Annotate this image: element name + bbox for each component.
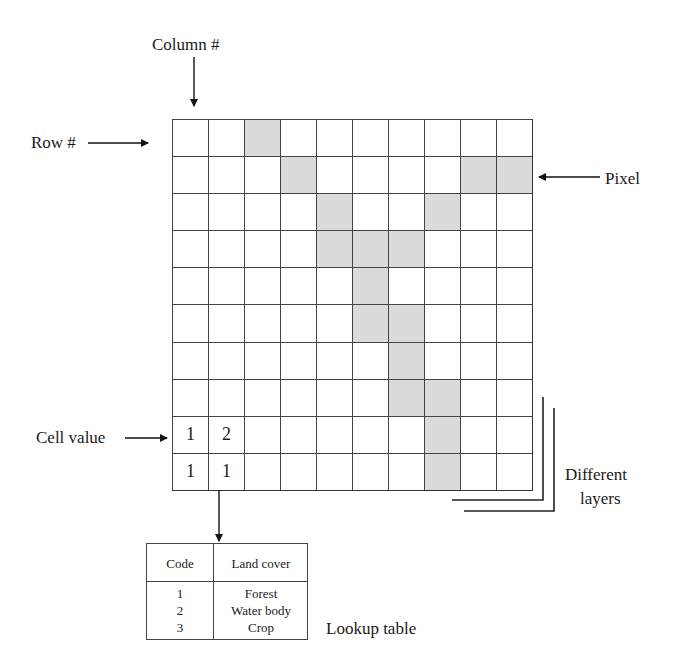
lookup-code: 2	[147, 603, 213, 619]
lookup-table: Code Land cover 1 Forest 2 Water body 3 …	[146, 543, 308, 640]
arrows-overlay	[0, 0, 680, 669]
lookup-code: 3	[147, 620, 213, 636]
lookup-cover: Crop	[214, 620, 308, 636]
header-land-cover: Land cover	[214, 556, 308, 572]
layer-outline-2	[464, 408, 554, 511]
lookup-cover: Water body	[214, 603, 308, 619]
lookup-cover: Forest	[214, 586, 308, 602]
lookup-code: 1	[147, 586, 213, 602]
lookup-table-header: Code Land cover	[147, 544, 307, 582]
header-code: Code	[147, 556, 213, 572]
layer-outline-1	[452, 397, 543, 500]
